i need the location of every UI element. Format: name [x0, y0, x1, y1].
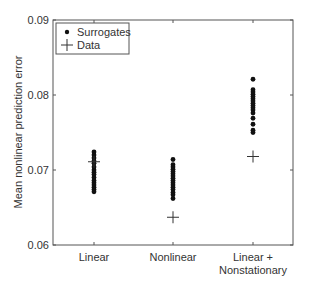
surrogate-point: [251, 116, 256, 121]
chart: 0.060.070.080.09 LinearNonlinearLinear +…: [0, 0, 310, 285]
legend-label-data: Data: [77, 39, 101, 51]
data-point: [167, 211, 179, 223]
plot-area: [88, 77, 259, 223]
y-tick-label: 0.06: [28, 239, 49, 251]
y-axis-label: Mean nonlinear prediction error: [12, 55, 24, 208]
x-tick-label: Nonstationary: [219, 264, 287, 276]
surrogate-point: [171, 157, 176, 162]
surrogate-point: [171, 196, 176, 201]
surrogate-point: [251, 111, 256, 116]
data-point: [88, 156, 100, 168]
x-tick-label: Linear +: [233, 251, 273, 263]
y-tick-label: 0.09: [28, 14, 49, 26]
surrogate-point: [251, 122, 256, 127]
y-tick-label: 0.07: [28, 164, 49, 176]
surrogate-point: [92, 189, 97, 194]
legend-label-surrogates: Surrogates: [77, 26, 131, 38]
legend-dot-icon: [65, 30, 69, 34]
x-tick-label: Linear: [79, 251, 110, 263]
y-tick-label: 0.08: [28, 89, 49, 101]
data-point: [247, 151, 259, 163]
x-tick-label: Nonlinear: [149, 251, 196, 263]
x-axis: LinearNonlinearLinear +Nonstationary: [79, 20, 288, 276]
surrogate-point: [251, 130, 256, 135]
surrogate-point: [251, 77, 256, 82]
legend: SurrogatesData: [56, 23, 131, 54]
